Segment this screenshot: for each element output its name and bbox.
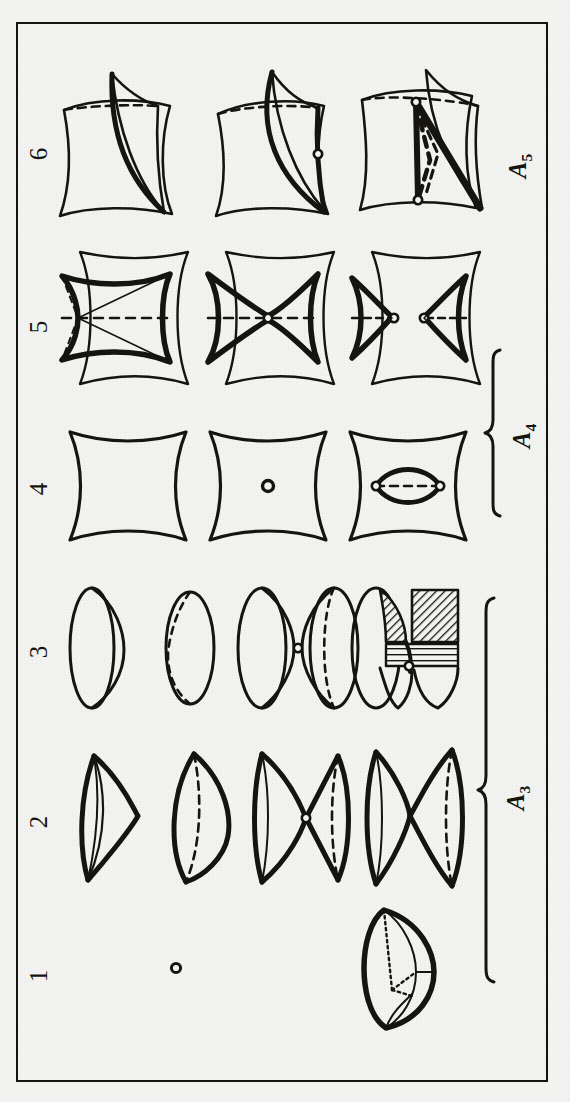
figure-drawing [0, 0, 570, 1102]
column-4-figures [70, 432, 466, 540]
column-label-5: 5 [25, 312, 53, 342]
column-label-2: 2 [25, 807, 53, 837]
column-1-figures [171, 910, 434, 1028]
group-label-a5: A5 [504, 154, 536, 178]
column-3-figures [70, 588, 458, 708]
group-label-a3-base: A [502, 794, 529, 811]
group-label-a3-sub: 3 [516, 786, 533, 794]
column-label-6: 6 [25, 139, 53, 169]
group-label-a5-base: A [504, 162, 531, 179]
column-6-figures [60, 70, 482, 216]
column-2-figures [82, 750, 463, 886]
group-label-a4-sub: 4 [522, 424, 539, 432]
column-label-4: 4 [25, 474, 53, 504]
group-braces [478, 350, 500, 982]
column-5-figures [62, 252, 480, 384]
group-label-a3: A3 [502, 786, 534, 810]
column-label-3: 3 [25, 637, 53, 667]
column-label-1: 1 [25, 961, 53, 991]
figure-page: 6 5 4 3 2 1 A5 A4 A3 [0, 0, 570, 1102]
group-label-a4: A4 [508, 424, 540, 448]
group-label-a4-base: A [508, 432, 535, 449]
group-label-a5-sub: 5 [518, 154, 535, 162]
